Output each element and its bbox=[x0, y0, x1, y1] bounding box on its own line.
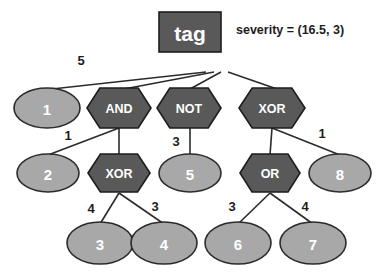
node-label-n3: 3 bbox=[96, 236, 104, 253]
node-label-n4: 4 bbox=[160, 236, 169, 253]
edge-weight-xor1-to-n8: 1 bbox=[318, 126, 325, 141]
node-label-tag: tag bbox=[174, 22, 206, 45]
edge-or-to-n6 bbox=[238, 193, 270, 224]
node-xor2[interactable]: XOR bbox=[88, 154, 150, 192]
edge-weight-xor2-to-n3: 4 bbox=[87, 201, 95, 216]
edge-xor1-to-or bbox=[270, 128, 272, 155]
node-label-n7: 7 bbox=[309, 236, 317, 253]
node-label-or: OR bbox=[261, 167, 280, 181]
edge-xor2-to-n3 bbox=[100, 193, 119, 224]
node-n2[interactable]: 2 bbox=[17, 154, 79, 192]
node-n6[interactable]: 6 bbox=[205, 222, 271, 264]
node-label-xor2: XOR bbox=[105, 167, 132, 181]
edge-tag-to-and bbox=[124, 72, 214, 89]
edge-weight-tag-to-n1: 5 bbox=[77, 53, 84, 68]
edge-weight-or-to-n7: 4 bbox=[301, 199, 309, 214]
edge-weight-not-to-n5: 3 bbox=[172, 134, 179, 149]
node-n4[interactable]: 4 bbox=[131, 222, 197, 264]
node-label-not: NOT bbox=[176, 102, 203, 116]
edge-tag-to-not bbox=[190, 72, 221, 89]
node-n1[interactable]: 1 bbox=[14, 88, 80, 128]
edge-xor1-to-n8 bbox=[272, 128, 340, 155]
node-and[interactable]: AND bbox=[87, 88, 151, 128]
edge-weight-and-to-n2: 1 bbox=[64, 128, 71, 143]
node-label-n1: 1 bbox=[43, 101, 51, 118]
node-label-and: AND bbox=[105, 102, 132, 116]
edge-weight-or-to-n6: 3 bbox=[228, 199, 235, 214]
node-n3[interactable]: 3 bbox=[67, 222, 133, 264]
edge-and-to-n2 bbox=[48, 128, 119, 155]
edge-tag-to-n1 bbox=[52, 72, 206, 89]
edge-tag-to-xor1 bbox=[228, 72, 277, 89]
severity-annotation: severity = (16.5, 3) bbox=[236, 23, 344, 37]
node-label-n5: 5 bbox=[186, 166, 194, 183]
expression-tree-graph: tag1ANDNOTXOR2XOR5OR83467 51314334 bbox=[0, 0, 385, 277]
node-label-n6: 6 bbox=[234, 236, 242, 253]
node-label-n8: 8 bbox=[336, 166, 344, 183]
node-label-xor1: XOR bbox=[258, 102, 285, 116]
node-n8[interactable]: 8 bbox=[309, 154, 371, 192]
node-tag[interactable]: tag bbox=[159, 12, 221, 52]
node-not[interactable]: NOT bbox=[157, 88, 221, 128]
node-label-n2: 2 bbox=[44, 166, 52, 183]
node-or[interactable]: OR bbox=[240, 154, 300, 192]
node-n7[interactable]: 7 bbox=[280, 222, 346, 264]
diagram-canvas: tag1ANDNOTXOR2XOR5OR83467 51314334 sever… bbox=[0, 0, 385, 277]
node-n5[interactable]: 5 bbox=[159, 154, 221, 192]
edge-weight-xor2-to-n4: 3 bbox=[151, 199, 158, 214]
node-xor1[interactable]: XOR bbox=[239, 88, 305, 128]
